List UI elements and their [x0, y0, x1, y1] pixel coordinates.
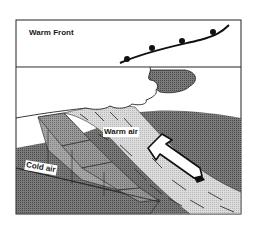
diagram-title: Warm Front [29, 28, 74, 37]
warm-air-label: Warm air [103, 127, 139, 137]
warm-front-diagram: Warm Front Warm air Cold air [0, 0, 256, 229]
